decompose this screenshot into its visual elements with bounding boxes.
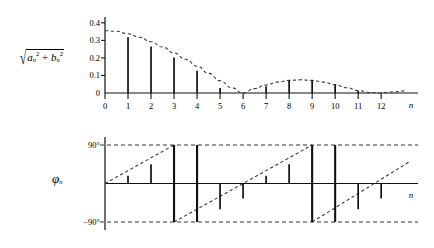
x-tick-3: 3	[172, 101, 176, 111]
magnitude-x-ticks	[105, 93, 381, 99]
x-tick-4: 4	[195, 101, 200, 111]
magnitude-x-tick-labels: 1211109876543210 n	[103, 100, 414, 111]
x-tick-5: 5	[218, 101, 222, 111]
y-tick-0.1: 0.1	[89, 70, 100, 80]
magnitude-envelope	[105, 31, 404, 93]
magnitude-axis-label: √an2 + bn2	[19, 49, 64, 66]
x-tick-10: 10	[331, 101, 340, 111]
y-tick-0.4: 0.4	[89, 18, 100, 28]
x-tick-9: 9	[310, 101, 314, 111]
x-tick-11: 11	[354, 101, 362, 111]
radicand: an2 + bn2	[26, 49, 64, 63]
magnitude-y-tick-labels: 00.10.20.30.4	[89, 18, 100, 98]
x-tick-6: 6	[241, 101, 245, 111]
x-tick-12: 12	[377, 101, 386, 111]
phase-axis-label: φn	[52, 171, 62, 187]
y-tick-0.3: 0.3	[89, 35, 100, 45]
ramp-seg-3	[312, 162, 409, 222]
x-tick-2: 2	[149, 101, 153, 111]
magnitude-spectrum-plot: 00.10.20.30.4 1211109876543210	[89, 17, 418, 111]
figure-container: √an2 + bn2 φn 00.10.20.30.4 121110987654…	[0, 0, 434, 248]
x-tick-0: 0	[103, 101, 107, 111]
x-tick-8: 8	[287, 101, 291, 111]
phase-y-tick-minus90: −90°	[83, 217, 100, 227]
ramp-seg-1	[105, 145, 174, 184]
phase-y-tick-plus90: 90°	[88, 140, 100, 150]
y-tick-0.2: 0.2	[89, 53, 100, 63]
y-tick-0: 0	[96, 88, 100, 98]
phase-x-axis-name: n	[409, 190, 414, 200]
spectra-svg: 00.10.20.30.4 1211109876543210	[0, 0, 434, 248]
x-tick-7: 7	[264, 101, 268, 111]
x-tick-1: 1	[126, 101, 130, 111]
magnitude-stems	[128, 37, 358, 93]
phase-spectrum-plot: 90° −90° n	[83, 137, 418, 230]
magnitude-x-axis-name: n	[409, 100, 414, 110]
